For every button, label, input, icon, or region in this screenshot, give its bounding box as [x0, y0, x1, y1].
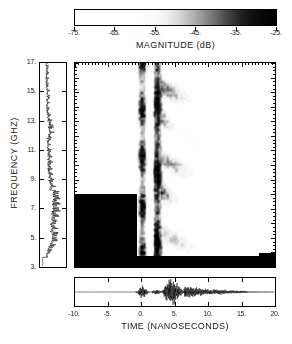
frequency-spectrum-trace [40, 63, 66, 267]
colorbar-tick-label: -25. [256, 28, 292, 37]
colorbar-tick-labels: -75.-65.-55.-45.-35.-25. [74, 28, 292, 39]
colorbar [74, 9, 277, 26]
colorbar-tick-label: -65. [94, 28, 134, 37]
colorbar-title: MAGNITUDE (dB) [74, 40, 277, 51]
frequency-tick-labels: 3.5.7.9.11.13.15.17. [12, 60, 36, 270]
spectrogram-image [74, 62, 276, 268]
frequency-tick-label: 7. [12, 204, 36, 212]
time-axis-title: TIME (NANOSECONDS) [74, 321, 276, 332]
frequency-tick-label: 17. [12, 58, 36, 66]
frequency-tick-label: 15. [12, 87, 36, 95]
time-tick-label: 20. [255, 309, 292, 318]
frequency-tick-label: 13. [12, 117, 36, 125]
colorbar-gradient [74, 9, 277, 26]
frequency-tick-label: 3. [12, 263, 36, 271]
time-waveform-trace [75, 278, 275, 306]
spectrogram-panel [74, 62, 276, 268]
frequency-tick-label: 9. [12, 175, 36, 183]
colorbar-tick-label: -45. [175, 28, 215, 37]
frequency-tick-label: 11. [12, 146, 36, 154]
frequency-spectrum-panel [39, 62, 67, 268]
time-waveform-panel [74, 277, 276, 307]
frequency-tick-label: 5. [12, 234, 36, 242]
colorbar-tick-label: -75. [54, 28, 94, 37]
time-tick-labels: -10.-5.0.5.10.15.20. [54, 309, 292, 320]
figure-root: -75.-65.-55.-45.-35.-25. MAGNITUDE (dB) … [0, 0, 292, 344]
colorbar-tick-label: -55. [135, 28, 175, 37]
colorbar-tick-label: -35. [216, 28, 256, 37]
